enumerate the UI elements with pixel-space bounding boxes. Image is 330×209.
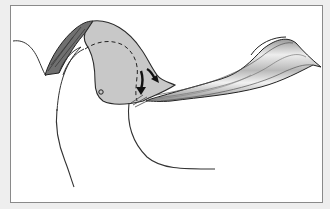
acromion-bone	[84, 21, 175, 104]
anatomy-illustration	[11, 6, 323, 203]
ligament-band	[146, 37, 321, 101]
figure-background	[0, 0, 330, 209]
lower-curve-line	[129, 103, 215, 169]
humerus-contour-line	[56, 109, 74, 187]
figure-panel	[10, 5, 323, 203]
left-contour-line	[13, 41, 46, 76]
